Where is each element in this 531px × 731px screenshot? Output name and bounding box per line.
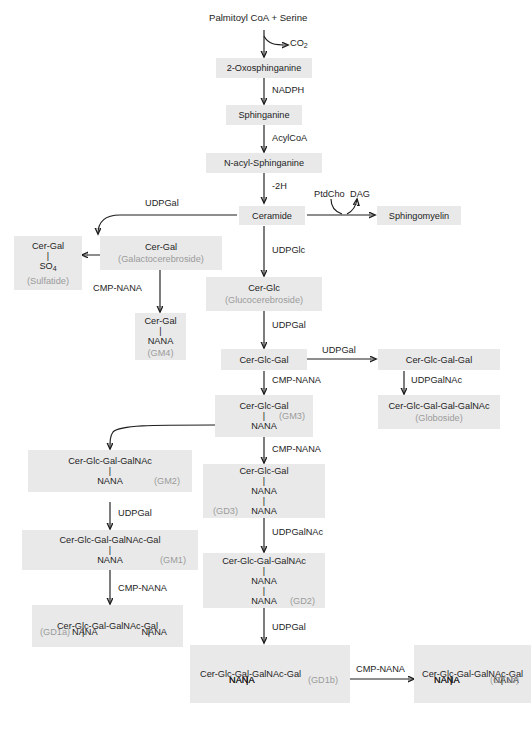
node-gm1: Cer-Glc-Gal-GalNAc-Gal | NANA (GM1)	[22, 530, 198, 570]
node-gm2-tag: (GM2)	[154, 475, 180, 487]
node-gt1b-tag: (GT1b)	[490, 674, 519, 686]
label-dag: DAG	[350, 189, 370, 200]
node-gd3: Cer-Glc-Gal | NANA | NANA (GD3)	[203, 464, 325, 518]
bond-tick: |	[109, 467, 111, 475]
node-ceramide: Ceramide	[239, 206, 305, 225]
bond-tick: |	[263, 587, 265, 595]
bond-tick: |	[263, 412, 265, 420]
label-co2: CO2	[290, 38, 308, 51]
bond-tick: |	[159, 327, 161, 335]
node-2-oxosphinganine: 2-Oxosphinganine	[216, 58, 312, 78]
label-minus-2h: -2H	[272, 181, 287, 192]
gm3-bond-row: | (GM3)	[221, 412, 307, 420]
node-gd2-tag: (GD2)	[290, 595, 315, 607]
node-gm2-nana: NANA	[97, 475, 123, 487]
label-udpgal-gm1: UDPGal	[118, 508, 152, 519]
label-acylcoa: AcylCoA	[272, 133, 307, 144]
label-udpgal-cerglc: UDPGal	[272, 320, 306, 331]
node-gd2-nana2: NANA	[251, 595, 277, 607]
gm2-label-row: NANA (GM2)	[34, 475, 186, 487]
node-gd1b-nana2: NANA	[229, 674, 255, 686]
node-sulfatide-so4: SO4	[39, 260, 56, 275]
node-sphingomyelin: Sphingomyelin	[377, 206, 461, 225]
node-gm3-tag: (GM3)	[279, 410, 305, 422]
node-gd1a-nana1: NANA	[72, 626, 98, 638]
bond-tick: |	[263, 477, 265, 485]
label-udpglc: UDPGlc	[272, 245, 305, 256]
node-gt1b: Cer-Glc-Gal-GalNAc-Gal | | NANA NANA | N…	[414, 645, 531, 703]
node-sphinganine: Sphinganine	[226, 105, 302, 125]
node-gm1-nana: NANA	[97, 554, 123, 566]
node-globoside: Cer-Glc-Gal-Gal-GalNAc (Globoside)	[378, 395, 500, 429]
pathway-diagram: Palmitoyl CoA + Serine CO2 2-Oxosphingan…	[0, 0, 531, 731]
node-sulfatide: Cer-Gal | SO4 (Sulfatide)	[14, 236, 82, 290]
bond-tick: |	[263, 567, 265, 575]
node-gm1-tag: (GM1)	[160, 554, 186, 566]
node-cer-glc-glucocerebroside: Cer-Glc (Glucocerebroside)	[206, 277, 322, 311]
node-gt1b-nana3: NANA	[434, 674, 460, 686]
bond-tick: |	[109, 546, 111, 554]
label-cmp-nana-gd1a: CMP-NANA	[118, 583, 167, 594]
label-cmp-nana-gt1b: CMP-NANA	[356, 664, 405, 675]
label-nadph: NADPH	[272, 85, 304, 96]
label-udpgal-ceramide: UDPGal	[145, 198, 179, 209]
node-gd1b: Cer-Glc-Gal-GalNAc-Gal | NANA | NANA (GD…	[190, 645, 350, 703]
bond-tick: |	[47, 252, 49, 260]
bond-tick: |	[263, 497, 265, 505]
gd3-label-row: NANA (GD3)	[209, 505, 319, 517]
node-gd1a-tag: (GD1a)	[40, 626, 70, 638]
label-cmp-nana-gm4: CMP-NANA	[93, 283, 142, 294]
node-gd1a: Cer-Glc-Gal-GalNAc-Gal | | (GD1a) NANA N…	[32, 605, 183, 647]
label-udpgal-globo: UDPGal	[322, 345, 356, 356]
node-gm2: Cer-Glc-Gal-GalNAc | NANA (GM2)	[28, 450, 192, 492]
node-gd1a-nana2: NANA	[141, 626, 167, 638]
gd2-label-row: NANA (GD2)	[209, 595, 319, 607]
node-palmitoyl-coa-serine: Palmitoyl CoA + Serine	[209, 12, 307, 23]
node-gm3: Cer-Glc-Gal | (GM3) NANA	[215, 395, 313, 437]
node-gd1b-tag: (GD1b)	[308, 674, 338, 686]
node-palmitoyl-label: Palmitoyl CoA + Serine	[209, 12, 307, 23]
node-gm4: Cer-Gal | NANA (GM4)	[135, 313, 186, 360]
node-cer-glc-gal-gal: Cer-Glc-Gal-Gal	[378, 349, 500, 370]
label-cmp-nana-gd3: CMP-NANA	[272, 444, 321, 455]
label-ptdcho: PtdCho	[314, 189, 345, 200]
label-udpgal-gd1b: UDPGal	[272, 622, 306, 633]
node-gd3-nana2: NANA	[251, 505, 277, 517]
label-cmp-nana-gm3: CMP-NANA	[272, 375, 321, 386]
label-udpgalnac-globo: UDPGalNAc	[411, 375, 462, 386]
node-cer-glc-gal: Cer-Glc-Gal	[221, 349, 307, 370]
gm1-label-row: NANA (GM1)	[28, 554, 192, 566]
node-gd3-tag: (GD3)	[213, 505, 238, 517]
node-gd2: Cer-Glc-Gal-GalNAc | NANA | NANA (GD2)	[203, 553, 325, 608]
node-cer-gal-galactocerebroside: Cer-Gal (Galactocerebroside)	[100, 236, 222, 270]
label-udpgalnac-gd2: UDPGalNAc	[272, 527, 323, 538]
node-n-acyl-sphinganine: N-acyl-Sphinganine	[206, 153, 322, 173]
